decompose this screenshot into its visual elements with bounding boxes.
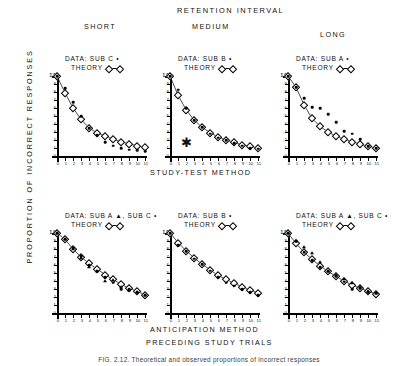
datapoint-dot-x7-long-study-test bbox=[343, 130, 346, 133]
y-tick-label-.8-medium-anticipation: .8 bbox=[165, 247, 169, 251]
x-tick-label-7-short-anticipation: 7 bbox=[113, 319, 115, 323]
legend-theory-diamond-1-short-anticipation bbox=[116, 222, 124, 230]
y-tick-label-.7-short-study-test: .7 bbox=[52, 98, 56, 102]
datapoint-dot-x5-medium-anticipation bbox=[209, 269, 212, 272]
y-tick-label-.4-short-anticipation: .4 bbox=[52, 279, 56, 283]
datapoint-dot-x1-long-anticipation bbox=[295, 240, 298, 243]
y-tick-label-.3-medium-study-test: .3 bbox=[165, 130, 169, 134]
x-tick-label-7-medium-anticipation: 7 bbox=[226, 319, 228, 323]
y-tick-label-.3-short-study-test: .3 bbox=[52, 130, 56, 134]
plot-area-long-study-test: 1.0.9.8.7.6.5.4.3.2.1001234567891011 bbox=[288, 76, 376, 156]
x-tick-label-2-long-study-test: 2 bbox=[304, 162, 306, 166]
asterisk-annotation-medium-study-test: ✱ bbox=[181, 136, 192, 149]
legend-theory-long-anticipation: THEORY bbox=[302, 221, 334, 228]
x-tick-label-10-long-anticipation: 10 bbox=[366, 319, 371, 323]
datapoint-dot-x1-short-anticipation bbox=[64, 238, 67, 241]
legend-theory-diamond-1-short-study-test bbox=[116, 65, 124, 73]
x-tick-label-4-long-anticipation: 4 bbox=[320, 319, 322, 323]
datapoint-dot-x8-short-anticipation bbox=[120, 288, 123, 291]
datapoint-dot-x8-long-anticipation bbox=[351, 288, 354, 291]
x-tick-label-7-medium-study-test: 7 bbox=[226, 162, 228, 166]
x-tick-label-2-medium-study-test: 2 bbox=[186, 162, 188, 166]
y-tick-label-.4-long-study-test: .4 bbox=[283, 122, 287, 126]
x-tick-label-6-medium-anticipation: 6 bbox=[218, 319, 220, 323]
y-tick-label-.2-medium-study-test: .2 bbox=[165, 138, 169, 142]
y-tick-label-.1-short-anticipation: .1 bbox=[52, 303, 56, 307]
x-tick-label-7-short-study-test: 7 bbox=[113, 162, 115, 166]
datapoint-dot-x11-long-anticipation bbox=[375, 292, 378, 295]
column-header-short: SHORT bbox=[84, 22, 116, 31]
y-tick-label-.1-long-study-test: .1 bbox=[283, 146, 287, 150]
datapoint-dot-x0-long-anticipation bbox=[287, 232, 290, 235]
legend-data-short-anticipation: DATA: SUB A ▲, SUB C • bbox=[65, 212, 157, 219]
datapoint-triangle-x6-short-anticipation bbox=[103, 279, 107, 282]
x-tick-label-0-long-study-test: 0 bbox=[288, 162, 290, 166]
x-tick-label-6-medium-study-test: 6 bbox=[218, 162, 220, 166]
datapoint-dot-x10-short-study-test bbox=[136, 149, 139, 152]
plot-area-short-study-test: 1.0.9.8.7.6.5.4.3.2.1001234567891011 bbox=[57, 76, 145, 156]
datapoint-dot-x0-short-anticipation bbox=[56, 232, 59, 235]
datapoint-dot-x11-medium-study-test bbox=[257, 148, 260, 151]
y-tick-label-.9-long-study-test: .9 bbox=[283, 82, 287, 86]
plot-area-long-anticipation: 1.0.9.8.7.6.5.4.3.2.1001234567891011 bbox=[288, 233, 376, 313]
y-tick-label-.5-short-anticipation: .5 bbox=[52, 271, 56, 275]
datapoint-dot-x6-long-anticipation bbox=[335, 275, 338, 278]
datapoint-dot-x2-long-study-test bbox=[303, 97, 306, 100]
datapoint-dot-x6-short-study-test bbox=[104, 141, 107, 144]
x-tick-label-6-long-study-test: 6 bbox=[336, 162, 338, 166]
legend-theory-diamond-0-medium-study-test bbox=[218, 65, 226, 73]
x-tick-label-9-short-anticipation: 9 bbox=[129, 319, 131, 323]
y-tick-label-.6-long-anticipation: .6 bbox=[283, 263, 287, 267]
x-tick-label-6-short-anticipation: 6 bbox=[105, 319, 107, 323]
datapoint-dot-x4-medium-study-test bbox=[201, 126, 204, 129]
legend-theory-diamond-1-long-anticipation bbox=[347, 222, 355, 230]
legend-theory-short-study-test: THEORY bbox=[71, 64, 103, 71]
datapoint-dot-x3-short-study-test bbox=[80, 115, 83, 118]
x-tick-label-10-medium-study-test: 10 bbox=[248, 162, 253, 166]
datapoint-dot-x5-long-study-test bbox=[327, 113, 330, 116]
legend-theory-medium-anticipation: THEORY bbox=[184, 221, 216, 228]
x-tick-label-8-long-anticipation: 8 bbox=[352, 319, 354, 323]
datapoint-dot-x8-short-study-test bbox=[120, 147, 123, 150]
legend-data-long-study-test: DATA: SUB A • bbox=[296, 55, 349, 62]
y-tick-label-.9-short-anticipation: .9 bbox=[52, 239, 56, 243]
datapoint-dot-x5-long-anticipation bbox=[327, 270, 330, 273]
datapoint-dot-x9-short-study-test bbox=[128, 148, 131, 151]
datapoint-triangle-x2-long-anticipation bbox=[302, 246, 306, 249]
datapoint-dot-x11-short-study-test bbox=[144, 150, 147, 153]
y-tick-label-.1-short-study-test: .1 bbox=[52, 146, 56, 150]
column-header-medium: MEDIUM bbox=[192, 22, 230, 31]
y-tick-label-.3-long-study-test: .3 bbox=[283, 130, 287, 134]
y-tick-label-0-short-anticipation: 0 bbox=[53, 311, 55, 315]
x-tick-label-11-short-study-test: 11 bbox=[144, 162, 148, 166]
y-tick-label-0-medium-anticipation: 0 bbox=[166, 311, 168, 315]
datapoint-triangle-x8-long-anticipation bbox=[350, 282, 354, 285]
datapoint-dot-x3-long-study-test bbox=[311, 106, 314, 109]
datapoint-dot-x2-long-anticipation bbox=[303, 251, 306, 254]
y-tick-label-.2-long-anticipation: .2 bbox=[283, 295, 287, 299]
figure-caption: FIG. 2.12. Theoretical and observed prop… bbox=[0, 356, 418, 366]
y-tick-label-.9-medium-study-test: .9 bbox=[165, 82, 169, 86]
x-tick-label-9-medium-study-test: 9 bbox=[242, 162, 244, 166]
x-tick-label-9-medium-anticipation: 9 bbox=[242, 319, 244, 323]
legend-data-long-anticipation: DATA: SUB A ▲, SUB C • bbox=[296, 212, 388, 219]
datapoint-dot-x5-short-anticipation bbox=[96, 269, 99, 272]
x-tick-label-5-short-study-test: 5 bbox=[97, 162, 99, 166]
y-tick-label-.4-medium-study-test: .4 bbox=[165, 122, 169, 126]
datapoint-dot-x5-short-study-test bbox=[96, 134, 99, 137]
x-tick-label-11-short-anticipation: 11 bbox=[144, 319, 148, 323]
datapoint-dot-x7-short-anticipation bbox=[112, 281, 115, 284]
datapoint-dot-x10-short-anticipation bbox=[136, 291, 139, 294]
x-tick-label-5-long-anticipation: 5 bbox=[328, 319, 330, 323]
y-tick-label-0-short-study-test: 0 bbox=[53, 154, 55, 158]
datapoint-dot-x6-long-study-test bbox=[335, 121, 338, 124]
x-tick-label-3-medium-anticipation: 3 bbox=[194, 319, 196, 323]
y-tick-label-.1-medium-study-test: .1 bbox=[165, 146, 169, 150]
y-tick-label-0-medium-study-test: 0 bbox=[166, 154, 168, 158]
datapoint-dot-x3-medium-anticipation bbox=[193, 257, 196, 260]
datapoint-dot-x10-long-study-test bbox=[367, 145, 370, 148]
x-tick-label-11-long-anticipation: 11 bbox=[375, 319, 379, 323]
x-tick-label-10-medium-anticipation: 10 bbox=[248, 319, 253, 323]
x-tick-label-0-medium-anticipation: 0 bbox=[170, 319, 172, 323]
y-tick-label-.1-long-anticipation: .1 bbox=[283, 303, 287, 307]
